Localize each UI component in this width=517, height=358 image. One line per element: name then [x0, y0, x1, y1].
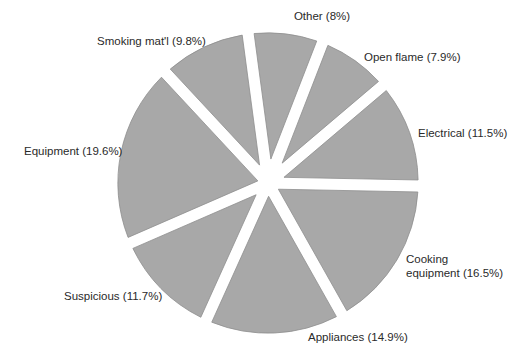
slice-label-line: Suspicious (11.7%) [64, 290, 162, 302]
pie-slices [118, 33, 418, 333]
slice-label-cooking-equipment: Cookingequipment (16.5%) [406, 253, 503, 279]
slice-label-appliances: Appliances (14.9%) [308, 331, 408, 343]
slice-label-line: Open flame (7.9%) [364, 51, 461, 63]
slice-label-line: equipment (16.5%) [406, 267, 503, 279]
slice-label-suspicious: Suspicious (11.7%) [64, 290, 162, 302]
slice-label-line: Appliances (14.9%) [308, 331, 408, 343]
slice-label-electrical: Electrical (11.5%) [418, 127, 507, 139]
slice-label-line: Electrical (11.5%) [418, 127, 507, 139]
slice-label-line: Equipment (19.6%) [24, 145, 123, 157]
pie-chart: Other (8%)Open flame (7.9%)Electrical (1… [0, 0, 517, 358]
slice-label-open-flame: Open flame (7.9%) [364, 51, 461, 63]
slice-label-smoking-mat-l: Smoking mat'l (9.8%) [97, 35, 206, 47]
slice-label-line: Smoking mat'l (9.8%) [97, 35, 206, 47]
slice-label-line: Other (8%) [294, 10, 350, 22]
slice-label-other: Other (8%) [294, 10, 350, 22]
slice-label-equipment: Equipment (19.6%) [24, 145, 123, 157]
slice-label-line: Cooking [406, 253, 448, 265]
